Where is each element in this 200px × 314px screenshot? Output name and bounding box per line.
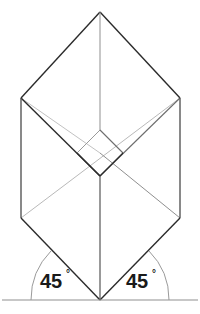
geometry-diagram: Isometric double-diamond construction wi… [0,0,200,314]
left-angle-degree-icon: ° [66,268,70,279]
right-angle-value: 45 [126,270,148,292]
geometry-figure-container: Isometric double-diamond construction wi… [0,0,200,314]
left-angle-value: 45 [40,270,62,292]
right-angle-degree-icon: ° [152,268,156,279]
